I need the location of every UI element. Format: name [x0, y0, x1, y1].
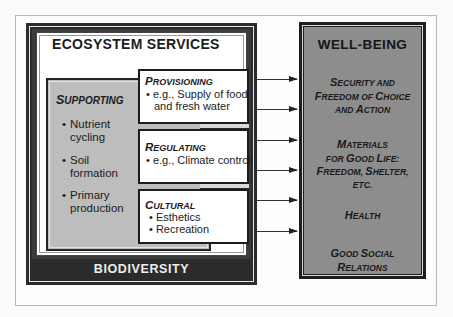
arrow-right-icon: [256, 170, 297, 171]
well-being-item-social-relations: GOOD SOCIAL RELATIONS: [299, 247, 426, 274]
provisioning-item: • e.g., Supply of food: [146, 88, 248, 100]
regulating-title: REGULATING: [145, 141, 206, 153]
well-being-title: WELL-BEING: [299, 37, 426, 52]
regulating-box: REGULATING • e.g., Climate control: [138, 129, 249, 184]
supporting-item-primary-production: •Primaryproduction: [62, 189, 124, 214]
arrow-right-icon: [256, 200, 297, 201]
well-being-item-health: HEALTH: [299, 209, 426, 223]
cultural-item-esthetics: • Esthetics: [149, 211, 201, 223]
well-being-item-security-freedom: SECURITY AND FREEDOM OF CHOICE AND ACTIO…: [299, 76, 426, 117]
provisioning-item-cont: and fresh water: [154, 100, 230, 112]
provisioning-title: PROVISIONING: [145, 75, 213, 87]
supporting-item-nutrient-cycling: •Nutrientcycling: [62, 118, 110, 143]
regulating-item: • e.g., Climate control: [146, 154, 251, 166]
ecosystem-services-title: ECOSYSTEM SERVICES: [52, 36, 220, 52]
supporting-item-soil-formation: •Soilformation: [62, 154, 118, 179]
supporting-title: SUPPORTING: [56, 93, 124, 107]
provisioning-box: PROVISIONING • e.g., Supply of food and …: [138, 69, 249, 124]
arrow-right-icon: [256, 231, 297, 232]
cultural-title: CULTURAL: [145, 199, 195, 211]
cultural-item-recreation: • Recreation: [149, 223, 209, 235]
arrow-right-icon: [256, 79, 297, 80]
well-being-item-materials: MATERIALS FOR GOOD LIFE: FREEDOM, SHELTE…: [299, 138, 426, 191]
arrow-right-icon: [256, 109, 297, 110]
cultural-box: CULTURAL • Esthetics • Recreation: [138, 189, 249, 244]
arrow-right-icon: [256, 140, 297, 141]
biodiversity-label: BIODIVERSITY: [26, 262, 257, 276]
